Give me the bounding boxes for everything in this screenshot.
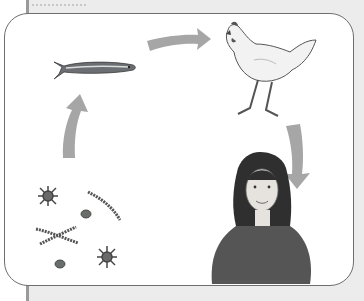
arrow-plankton-to-fish xyxy=(63,94,88,158)
arrow-chicken-to-human xyxy=(285,124,310,189)
chicken-icon xyxy=(226,22,316,116)
fish-icon xyxy=(54,62,135,79)
food-chain-diagram xyxy=(0,0,364,301)
arrow-fish-to-chicken xyxy=(147,28,211,51)
plankton-icon xyxy=(36,186,120,268)
